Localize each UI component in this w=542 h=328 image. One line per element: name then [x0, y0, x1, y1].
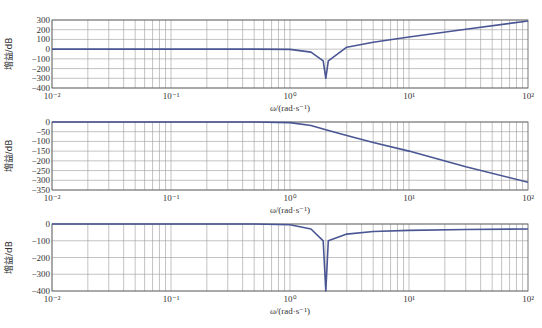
x-tick-labels: 10⁻²10⁻¹10⁰10¹10²	[44, 91, 535, 101]
y-axis-label: 增益/dB	[3, 140, 14, 173]
x-tick-labels: 10⁻²10⁻¹10⁰10¹10²	[44, 294, 535, 304]
x-axis-label: ω/(rad·s⁻¹)	[270, 103, 310, 113]
x-axis-label: ω/(rad·s⁻¹)	[270, 205, 310, 215]
x-tick-labels: 10⁻²10⁻¹10⁰10¹10²	[44, 193, 535, 203]
y-tick-label: −200	[31, 156, 50, 166]
x-tick-label: 10⁻¹	[163, 294, 180, 304]
y-tick-label: −100	[31, 54, 50, 64]
y-tick-label: −50	[36, 127, 51, 137]
x-tick-label: 10⁰	[284, 91, 297, 101]
y-tick-label: 0	[46, 117, 51, 127]
x-tick-label: 10¹	[403, 91, 415, 101]
y-tick-label: 200	[37, 25, 51, 35]
x-tick-label: 10¹	[403, 294, 415, 304]
x-tick-label: 10¹	[403, 193, 415, 203]
x-tick-label: 10⁻¹	[163, 193, 180, 203]
y-tick-label: −250	[31, 166, 50, 176]
x-tick-label: 10⁰	[284, 193, 297, 203]
y-axis-label: 增益/dB	[3, 241, 14, 274]
y-tick-label: 0	[46, 219, 51, 229]
y-tick-labels: 0−50−100−150−200−250−300−350	[31, 117, 50, 195]
bode-figure: 3002001000−100−200−300−40010⁻²10⁻¹10⁰10¹…	[0, 0, 542, 328]
x-tick-label: 10²	[522, 193, 534, 203]
x-tick-label: 10²	[522, 294, 534, 304]
y-tick-label: −150	[31, 146, 50, 156]
y-tick-label: −300	[31, 269, 50, 279]
y-tick-label: −200	[31, 64, 50, 74]
grid	[52, 224, 528, 291]
subplot-3: 0−100−200−300−40010⁻²10⁻¹10⁰10¹10²ω/(rad…	[3, 219, 534, 316]
x-tick-label: 10⁻²	[44, 193, 61, 203]
y-tick-label: −100	[31, 236, 50, 246]
grid	[52, 122, 528, 190]
x-tick-label: 10⁻²	[44, 294, 61, 304]
y-tick-label: 0	[46, 44, 51, 54]
x-axis-label: ω/(rad·s⁻¹)	[270, 306, 310, 316]
subplot-1: 3002001000−100−200−300−40010⁻²10⁻¹10⁰10¹…	[3, 15, 534, 113]
y-tick-label: −100	[31, 136, 50, 146]
x-tick-label: 10⁻¹	[163, 91, 180, 101]
y-tick-label: −300	[31, 73, 50, 83]
y-tick-labels: 0−100−200−300−400	[31, 219, 50, 296]
y-tick-label: 100	[37, 34, 51, 44]
y-tick-label: 300	[37, 15, 51, 25]
x-tick-label: 10²	[522, 91, 534, 101]
y-tick-label: −300	[31, 175, 50, 185]
x-tick-label: 10⁰	[284, 294, 297, 304]
y-axis-label: 增益/dB	[3, 38, 14, 71]
y-tick-label: −200	[31, 253, 50, 263]
x-tick-label: 10⁻²	[44, 91, 61, 101]
subplot-2: 0−50−100−150−200−250−300−35010⁻²10⁻¹10⁰1…	[3, 117, 534, 215]
y-tick-labels: 3002001000−100−200−300−400	[31, 15, 50, 93]
